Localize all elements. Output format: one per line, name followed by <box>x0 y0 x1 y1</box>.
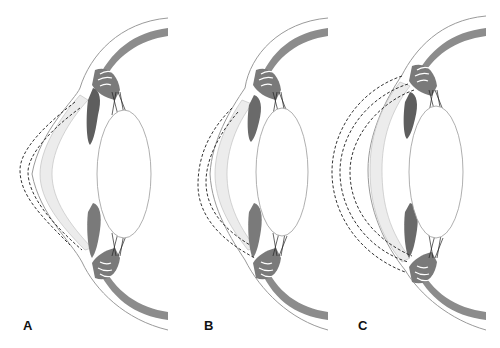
eye-diagram-b <box>170 0 330 348</box>
panel-label-b: B <box>204 318 213 333</box>
panel-a: A <box>0 0 170 348</box>
eye-diagram-a <box>0 0 170 348</box>
panel-b: B <box>170 0 330 348</box>
panel-label-a: A <box>23 318 32 333</box>
panel-c: C <box>330 0 500 348</box>
panel-label-c: C <box>358 318 367 333</box>
eye-diagram-c <box>330 0 500 348</box>
